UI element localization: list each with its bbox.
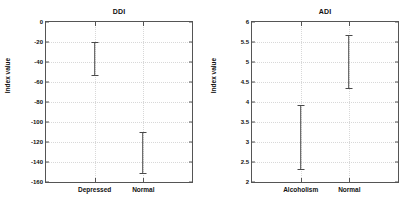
y-tick-mark — [395, 102, 398, 103]
y-tick-mark — [46, 102, 49, 103]
y-tick-mark — [189, 82, 192, 83]
gridline-horizontal — [46, 62, 192, 63]
gridline-horizontal — [46, 142, 192, 143]
y-tick-label-ddi: -80 — [34, 99, 43, 105]
y-tick-label-adi: 2 — [246, 179, 249, 185]
error-bar-cap — [346, 88, 353, 89]
gridline-horizontal — [252, 82, 398, 83]
y-tick-label-ddi: -120 — [31, 139, 43, 145]
gridline-horizontal — [252, 142, 398, 143]
y-tick-label-adi: 4.5 — [241, 79, 249, 85]
y-tick-mark — [46, 122, 49, 123]
figure-canvas: DDI Index value 0-20-40-60-80-100-120-14… — [0, 0, 411, 213]
error-bar-cap — [140, 132, 147, 133]
y-tick-label-ddi: -20 — [34, 39, 43, 45]
y-tick-mark — [395, 182, 398, 183]
y-tick-label-ddi: -160 — [31, 179, 43, 185]
gridline-horizontal — [252, 42, 398, 43]
y-tick-mark — [252, 162, 255, 163]
y-tick-label-ddi: -100 — [31, 119, 43, 125]
y-tick-mark — [252, 142, 255, 143]
y-tick-mark — [395, 162, 398, 163]
y-tick-mark — [252, 62, 255, 63]
gridline-horizontal — [252, 62, 398, 63]
gridline-horizontal — [46, 82, 192, 83]
y-tick-mark — [46, 142, 49, 143]
y-tick-label-ddi: 0 — [40, 19, 43, 25]
error-bar-cap — [91, 75, 98, 76]
error-bar-depressed — [94, 42, 95, 75]
y-tick-mark — [395, 22, 398, 23]
error-bar-cap — [140, 173, 147, 174]
y-tick-mark — [46, 182, 49, 183]
y-tick-mark — [189, 122, 192, 123]
x-tick-mark — [95, 178, 96, 182]
y-tick-label-adi: 4 — [246, 99, 249, 105]
y-tick-mark — [252, 102, 255, 103]
x-tick-mark — [301, 178, 302, 182]
chart-title-adi: ADI — [251, 8, 399, 15]
y-tick-mark — [395, 62, 398, 63]
y-tick-mark — [189, 62, 192, 63]
y-tick-label-adi: 5 — [246, 59, 249, 65]
chart-panel-adi: ADI Index value 65.554.543.532.52Alcohol… — [206, 0, 411, 213]
y-tick-mark — [252, 122, 255, 123]
error-bar-cap — [91, 42, 98, 43]
plot-area-adi: 65.554.543.532.52AlcoholismNormal — [251, 21, 399, 183]
y-tick-mark — [395, 122, 398, 123]
y-axis-label-ddi: Index value — [4, 36, 11, 116]
y-tick-mark — [252, 82, 255, 83]
y-tick-label-adi: 5.5 — [241, 39, 249, 45]
x-tick-mark — [349, 178, 350, 182]
error-bar-alcoholism — [300, 105, 301, 169]
y-tick-mark — [252, 42, 255, 43]
y-tick-mark — [189, 142, 192, 143]
y-tick-mark — [46, 62, 49, 63]
gridline-horizontal — [46, 102, 192, 103]
y-tick-mark — [189, 182, 192, 183]
y-tick-label-adi: 6 — [246, 19, 249, 25]
gridline-horizontal — [252, 162, 398, 163]
gridline-horizontal — [46, 122, 192, 123]
x-tick-label-normal: Normal — [132, 186, 154, 193]
y-tick-label-ddi: -140 — [31, 159, 43, 165]
x-tick-mark — [349, 22, 350, 26]
error-bar-normal — [349, 35, 350, 88]
error-bar-normal — [143, 132, 144, 173]
y-tick-mark — [395, 42, 398, 43]
y-tick-label-adi: 3.5 — [241, 119, 249, 125]
y-tick-mark — [252, 22, 255, 23]
y-tick-mark — [252, 182, 255, 183]
gridline-horizontal — [252, 102, 398, 103]
gridline-horizontal — [46, 42, 192, 43]
gridline-horizontal — [252, 122, 398, 123]
error-bar-cap — [297, 169, 304, 170]
y-tick-mark — [189, 102, 192, 103]
y-axis-label-adi: Index value — [210, 36, 217, 116]
error-bar-cap — [297, 105, 304, 106]
chart-panel-ddi: DDI Index value 0-20-40-60-80-100-120-14… — [0, 0, 205, 213]
x-tick-label-depressed: Depressed — [78, 186, 111, 193]
y-tick-label-adi: 3 — [246, 139, 249, 145]
y-tick-mark — [395, 82, 398, 83]
x-tick-mark — [143, 178, 144, 182]
y-tick-mark — [189, 22, 192, 23]
y-tick-mark — [46, 82, 49, 83]
x-tick-label-normal: Normal — [338, 186, 360, 193]
gridline-horizontal — [46, 162, 192, 163]
y-tick-mark — [189, 162, 192, 163]
x-tick-mark — [301, 22, 302, 26]
x-tick-mark — [143, 22, 144, 26]
plot-area-ddi: 0-20-40-60-80-100-120-140-160DepressedNo… — [45, 21, 193, 183]
y-tick-label-adi: 2.5 — [241, 159, 249, 165]
y-tick-mark — [46, 22, 49, 23]
y-tick-mark — [395, 142, 398, 143]
error-bar-cap — [346, 35, 353, 36]
x-tick-mark — [95, 22, 96, 26]
y-tick-label-ddi: -60 — [34, 79, 43, 85]
chart-title-ddi: DDI — [45, 8, 193, 15]
y-tick-mark — [46, 42, 49, 43]
x-tick-label-alcoholism: Alcoholism — [283, 186, 318, 193]
y-tick-label-ddi: -40 — [34, 59, 43, 65]
y-tick-mark — [46, 162, 49, 163]
